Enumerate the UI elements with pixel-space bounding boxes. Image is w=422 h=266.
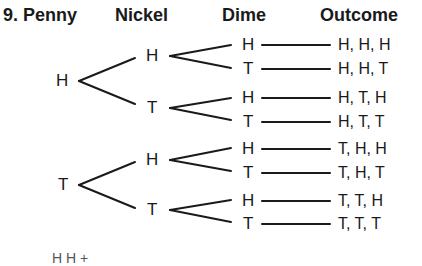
outcome-5: T, H, H bbox=[338, 140, 387, 158]
problem-header: 9. Penny bbox=[3, 4, 77, 26]
dime-node-2: T bbox=[243, 60, 253, 78]
dime-node-1: H bbox=[242, 36, 254, 54]
dime-node-3: H bbox=[242, 89, 254, 107]
outcome-4: H, T, T bbox=[338, 113, 385, 131]
nickel-node-h2: H bbox=[146, 151, 158, 169]
outcome-6: T, H, T bbox=[338, 164, 385, 182]
outcome-1: H, H, H bbox=[338, 36, 390, 54]
header-nickel: Nickel bbox=[115, 4, 168, 26]
dime-node-5: H bbox=[242, 140, 254, 158]
outcome-3: H, T, H bbox=[338, 89, 387, 107]
header-outcome: Outcome bbox=[320, 4, 398, 26]
problem-number: 9. bbox=[3, 5, 18, 25]
dime-node-4: T bbox=[243, 113, 253, 131]
nickel-node-h1: H bbox=[146, 47, 158, 65]
dime-node-8: T bbox=[243, 215, 253, 233]
dime-node-7: H bbox=[242, 192, 254, 210]
penny-node-h: H bbox=[56, 72, 68, 90]
outcome-8: T, T, T bbox=[338, 215, 381, 233]
outcome-2: H, H, T bbox=[338, 60, 388, 78]
cut-off-footer-text: H H + bbox=[52, 250, 88, 266]
penny-node-t: T bbox=[58, 176, 68, 194]
header-dime: Dime bbox=[222, 4, 266, 26]
outcome-7: T, T, H bbox=[338, 192, 383, 210]
header-penny: Penny bbox=[23, 5, 77, 25]
nickel-node-t2: T bbox=[147, 201, 157, 219]
dime-node-6: T bbox=[243, 164, 253, 182]
nickel-node-t1: T bbox=[147, 99, 157, 117]
